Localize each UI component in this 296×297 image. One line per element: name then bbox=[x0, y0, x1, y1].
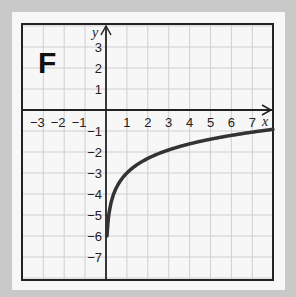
x-tick-label: 7 bbox=[249, 115, 256, 130]
y-tick-label: −7 bbox=[87, 250, 102, 265]
x-tick-label: −1 bbox=[72, 115, 87, 130]
y-tick-label: −4 bbox=[87, 187, 102, 202]
x-tick-label: 2 bbox=[144, 115, 151, 130]
y-tick-label: 1 bbox=[95, 82, 102, 97]
panel-label: F bbox=[38, 46, 56, 79]
y-tick-label: −1 bbox=[87, 124, 102, 139]
x-tick-label: −3 bbox=[30, 115, 45, 130]
y-tick-label: −3 bbox=[87, 166, 102, 181]
y-tick-label: 3 bbox=[95, 40, 102, 55]
y-tick-label: −6 bbox=[87, 229, 102, 244]
graph-plot: −3−2−11234567 321−1−2−3−4−5−6−7 x y F bbox=[0, 0, 296, 297]
x-tick-label: 4 bbox=[186, 115, 193, 130]
x-tick-label: −2 bbox=[51, 115, 66, 130]
y-axis-label: y bbox=[90, 25, 99, 40]
y-tick-labels: 321−1−2−3−4−5−6−7 bbox=[87, 40, 102, 265]
x-tick-label: 3 bbox=[165, 115, 172, 130]
x-tick-label: 1 bbox=[123, 115, 130, 130]
x-tick-label: 6 bbox=[228, 115, 235, 130]
x-axis-label: x bbox=[261, 114, 269, 129]
y-tick-label: 2 bbox=[95, 61, 102, 76]
y-tick-label: −5 bbox=[87, 208, 102, 223]
y-tick-label: −2 bbox=[87, 145, 102, 160]
x-tick-label: 5 bbox=[207, 115, 214, 130]
grid-lines bbox=[22, 24, 273, 280]
x-tick-labels: −3−2−11234567 bbox=[30, 115, 256, 130]
